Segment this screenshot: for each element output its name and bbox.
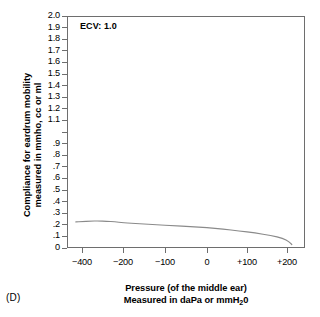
y-tick-label: .5	[34, 185, 60, 194]
y-tick-mark	[62, 97, 67, 98]
y-tick-mark	[62, 74, 67, 75]
x-tick-mark	[247, 248, 248, 253]
y-tick-mark	[62, 120, 67, 121]
x-tick-label: −400	[62, 258, 102, 267]
x-tick-label: +200	[267, 258, 307, 267]
y-tick-mark	[62, 39, 67, 40]
y-tick-mark	[62, 201, 67, 202]
x-axis-title: Pressure (of the middle ear) Measured in…	[67, 283, 305, 306]
y-tick-label: 1.2	[34, 104, 60, 113]
y-tick-label: .4	[34, 197, 60, 206]
y-tick-label: .7	[34, 162, 60, 171]
x-axis-unit-pre: Measured in daPa or mmH	[124, 295, 240, 305]
y-tick-label: .1	[34, 231, 60, 240]
x-axis-unit-subscript: 2	[239, 299, 243, 306]
y-tick-mark	[62, 62, 67, 63]
y-tick-mark	[62, 248, 67, 249]
y-tick-mark	[62, 85, 67, 86]
tympanogram-figure: Compliance for eardrum mobility measured…	[0, 0, 320, 317]
y-tick-mark	[62, 190, 67, 191]
y-tick-label: 1.9	[34, 23, 60, 32]
x-tick-mark	[82, 248, 83, 253]
y-tick-label: 2.0	[34, 11, 60, 20]
y-tick-label: 1.1	[34, 115, 60, 124]
x-tick-label: −100	[145, 258, 185, 267]
x-axis-title-line1: Pressure (of the middle ear)	[67, 283, 305, 295]
y-tick-label: 1.4	[34, 81, 60, 90]
y-tick-mark	[62, 132, 67, 133]
y-tick-mark	[62, 166, 67, 167]
y-tick-label: 1.3	[34, 92, 60, 101]
y-tick-label: .6	[34, 173, 60, 182]
y-tick-label: .3	[34, 208, 60, 217]
y-tick-mark	[62, 155, 67, 156]
y-tick-label: 0	[34, 243, 60, 252]
x-tick-mark	[207, 248, 208, 253]
plot-area	[67, 16, 305, 248]
x-tick-mark	[165, 248, 166, 253]
y-tick-mark	[62, 27, 67, 28]
y-tick-mark	[62, 50, 67, 51]
y-tick-label: 1.5	[34, 69, 60, 78]
panel-letter: (D)	[6, 292, 20, 303]
y-tick-label: .8	[34, 150, 60, 159]
y-tick-label: 1.8	[34, 34, 60, 43]
y-tick-mark	[62, 143, 67, 144]
y-tick-mark	[62, 108, 67, 109]
y-tick-label: .9	[34, 139, 60, 148]
x-tick-mark	[123, 248, 124, 253]
x-axis-unit-post: 0	[243, 295, 248, 305]
y-tick-label: 1.7	[34, 46, 60, 55]
x-tick-label: +100	[227, 258, 267, 267]
x-tick-mark	[287, 248, 288, 253]
y-tick-mark	[62, 236, 67, 237]
y-tick-label: .2	[34, 220, 60, 229]
x-tick-label: 0	[187, 258, 227, 267]
y-tick-mark	[62, 213, 67, 214]
y-tick-mark	[62, 178, 67, 179]
y-tick-mark	[62, 224, 67, 225]
ecv-annotation: ECV: 1.0	[80, 21, 117, 31]
y-axis-title-line1: Compliance for eardrum mobility	[22, 30, 33, 260]
x-axis-title-line2: Measured in daPa or mmH20	[67, 295, 305, 307]
y-tick-mark	[62, 16, 67, 17]
y-tick-label: 1.6	[34, 57, 60, 66]
x-tick-label: −200	[103, 258, 143, 267]
